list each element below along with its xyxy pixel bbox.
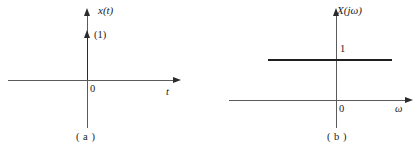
- panel-b-frequency-domain: X(jω) 1 0 ω ( b ): [209, 0, 418, 149]
- panel-b-caption: ( b ): [327, 132, 347, 143]
- panel-a-amplitude-label: (1): [94, 30, 106, 41]
- panel-b-vertical-axis: [336, 16, 337, 128]
- panel-a-horizontal-axis: [8, 80, 175, 81]
- panel-a-impulse-stem: [87, 38, 89, 80]
- panel-b-x-axis-label: ω: [395, 104, 402, 115]
- panel-a-x-axis-label: t: [166, 87, 169, 98]
- figure-container: x(t) (1) 0 t ( a ) X(jω) 1 0 ω ( b ): [0, 0, 418, 149]
- panel-b-signal-label: X(jω): [337, 5, 362, 16]
- panel-a-time-domain: x(t) (1) 0 t ( a ): [0, 0, 209, 149]
- panel-a-signal-label: x(t): [98, 5, 113, 16]
- panel-b-constant-spectrum-line: [268, 59, 392, 61]
- panel-a-origin-label: 0: [90, 84, 95, 95]
- panel-a-x-axis-arrow-icon: [173, 77, 181, 83]
- panel-b-amplitude-label: 1: [340, 44, 345, 55]
- panel-a-impulse-arrow-icon: [84, 30, 90, 38]
- panel-b-horizontal-axis: [229, 100, 407, 101]
- panel-b-origin-label: 0: [339, 104, 344, 115]
- panel-a-y-axis-arrow-icon: [84, 8, 90, 16]
- panel-a-caption: ( a ): [76, 132, 95, 143]
- panel-b-x-axis-arrow-icon: [405, 97, 413, 103]
